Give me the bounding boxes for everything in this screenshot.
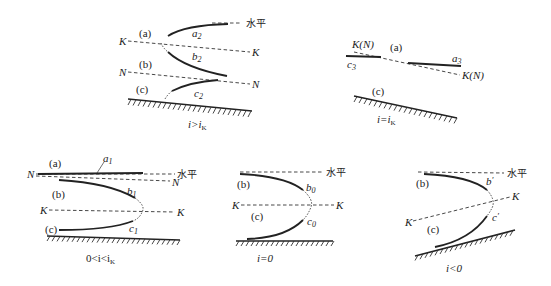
k-line-label-right: K [335, 199, 344, 211]
critical-depth-line [128, 41, 250, 52]
panel-critical-slope: K(N) K(N) (a) c3 a3 (c) [346, 38, 484, 127]
n-line-label-left: N [118, 66, 127, 78]
zone-b-label: (b) [52, 188, 65, 201]
curve-b-prime [424, 174, 487, 190]
horizontal-label: 水平 [326, 167, 346, 178]
zone-c-label: (c) [372, 85, 385, 98]
kn-line-label-right: K(N) [461, 69, 484, 82]
curve-c0 [247, 220, 303, 239]
n-line-label-right: N [171, 176, 180, 188]
normal-depth-line [36, 176, 170, 181]
k-line-label-right: K [176, 206, 185, 218]
k-line-label-right: K [251, 46, 260, 58]
curve-c3 [346, 56, 381, 57]
horizontal-label: 水平 [507, 168, 527, 179]
panel-adverse-slope: 水平 (b) K K (c) b′ c′ [404, 168, 527, 274]
horizontal-label: 水平 [246, 18, 266, 29]
curve-c0-label: c0 [307, 215, 316, 229]
critical-depth-line [49, 210, 175, 212]
zone-b-label: (b) [139, 58, 152, 71]
critical-normal-line [354, 52, 460, 75]
n-line-label-left: N [26, 168, 35, 180]
curve-c-prime-label: c′ [492, 211, 500, 223]
zone-c-label: (c) [251, 210, 264, 223]
kn-line-label-left: K(N) [351, 38, 374, 51]
zone-c-label: (c) [427, 223, 440, 236]
curve-c1 [59, 221, 133, 230]
k-line-label-left: K [231, 199, 240, 211]
curve-a3-label: a3 [452, 52, 462, 66]
curve-c2-transition [165, 91, 172, 99]
panel-horizontal-bed: 水平 (b) K K (c) b0 c0 [231, 167, 346, 264]
curve-b1-label: b1 [127, 185, 137, 199]
panel-caption: i<0 [446, 262, 462, 274]
channel-bed [128, 99, 252, 111]
curve-c-prime [435, 216, 487, 247]
horizontal-line [418, 172, 504, 173]
curve-c2-label: c2 [194, 87, 203, 101]
panel-caption: i>iK [188, 118, 207, 132]
curve-a1-label: a1 [103, 152, 113, 166]
curve-b0-label: b0 [306, 181, 316, 195]
horizontal-label: 水平 [177, 169, 197, 180]
k-line-label-left: K [118, 35, 127, 47]
panel-mild-slope: N 水平 N a1 (a) (b) K K b1 c1 (c) [26, 152, 197, 266]
zone-a-label: (a) [139, 27, 152, 40]
curve-b1 [59, 180, 135, 198]
zone-b-label: (b) [416, 177, 429, 190]
n-line-label-right: N [251, 78, 260, 90]
panel-caption: i=iK [377, 113, 396, 127]
bed-hatching [354, 97, 457, 124]
zone-c-label: (c) [45, 223, 58, 236]
panel-caption: i=0 [257, 252, 273, 264]
zone-a-label: (a) [49, 157, 62, 170]
curve-transition [133, 198, 143, 221]
channel-bed [47, 236, 180, 240]
k-line-label-left: K [39, 204, 48, 216]
k-line-label-left: K [404, 216, 413, 228]
water-surface-profiles-diagram: 水平 K K N N (a) (b) (c) a2 b2 c2 [0, 0, 551, 286]
curve-a2-label: a2 [192, 27, 202, 41]
zone-a-label: (a) [390, 41, 403, 54]
curve-b-prime-label: b′ [486, 175, 495, 187]
zone-c-label: (c) [136, 83, 149, 96]
curve-c3-label: c3 [347, 58, 356, 72]
curve-a1 [38, 173, 143, 174]
bed-hatching [128, 99, 251, 117]
curve-b2-label: b2 [192, 50, 202, 64]
k-line-label-right: K [511, 190, 520, 202]
panel-caption: 0<i<iK [86, 252, 115, 266]
curve-c1-label: c1 [129, 222, 138, 236]
panel-steep-slope: 水平 K K N N (a) (b) (c) a2 b2 c2 [118, 18, 266, 132]
zone-b-label: (b) [237, 178, 250, 191]
